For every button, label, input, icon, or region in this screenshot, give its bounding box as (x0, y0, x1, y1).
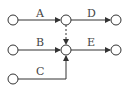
label-c: C (36, 65, 44, 78)
label-e: E (87, 36, 95, 49)
node-6 (111, 15, 121, 25)
label-b: B (36, 36, 44, 49)
node-1 (8, 15, 18, 25)
node-3 (8, 74, 18, 84)
label-d: D (87, 7, 96, 20)
node-2 (8, 45, 18, 55)
node-5 (61, 45, 71, 55)
node-4 (61, 15, 71, 25)
node-7 (111, 45, 121, 55)
network-diagram: A B C D E (0, 0, 133, 88)
label-a: A (35, 7, 45, 20)
